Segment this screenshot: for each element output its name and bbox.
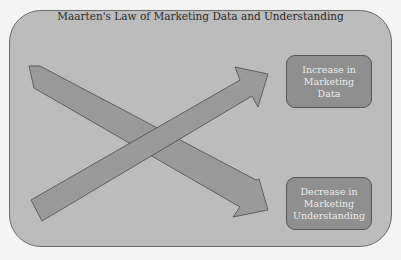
increase-data-label: Increase in Marketing Data <box>291 64 367 100</box>
increase-data-box: Increase in Marketing Data <box>286 55 372 108</box>
decrease-understanding-box: Decrease in Marketing Understanding <box>286 177 372 230</box>
decrease-understanding-label: Decrease in Marketing Understanding <box>291 186 367 222</box>
